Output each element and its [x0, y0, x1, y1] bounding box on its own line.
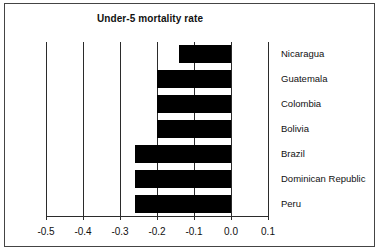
bar: [135, 145, 231, 163]
x-tick-label: -0.5: [26, 226, 66, 237]
x-tick-label: 0.0: [211, 226, 251, 237]
x-tick: [194, 213, 195, 220]
gridline: [231, 42, 232, 216]
bar: [157, 95, 231, 113]
gridline: [83, 42, 84, 216]
category-label: Brazil: [281, 148, 305, 159]
bar: [135, 195, 231, 213]
x-tick: [268, 213, 269, 220]
category-label: Bolivia: [281, 123, 309, 134]
chart-title: Under-5 mortality rate: [5, 13, 295, 24]
bar: [157, 70, 231, 88]
x-tick-label: -0.4: [63, 226, 103, 237]
bar: [157, 120, 231, 138]
bar: [179, 45, 231, 63]
x-tick-label: 0.1: [248, 226, 288, 237]
category-label: Peru: [281, 198, 301, 209]
bar: [135, 170, 231, 188]
x-tick-label: -0.1: [174, 226, 214, 237]
x-tick-label: -0.2: [137, 226, 177, 237]
category-label: Dominican Republic: [281, 173, 365, 184]
gridline: [120, 42, 121, 216]
category-label: Colombia: [281, 98, 321, 109]
gridline: [46, 42, 47, 216]
figure-frame: Under-5 mortality rate -0.5-0.4-0.3-0.2-…: [4, 3, 375, 247]
x-tick: [120, 213, 121, 220]
category-label: Nicaragua: [281, 48, 324, 59]
category-label: Guatemala: [281, 73, 327, 84]
x-tick: [157, 213, 158, 220]
x-tick: [46, 213, 47, 220]
x-tick-label: -0.3: [100, 226, 140, 237]
plot-area: [46, 42, 268, 216]
x-tick: [231, 213, 232, 220]
gridline: [268, 42, 269, 216]
chart-figure: Under-5 mortality rate -0.5-0.4-0.3-0.2-…: [0, 0, 379, 251]
x-tick: [83, 213, 84, 220]
